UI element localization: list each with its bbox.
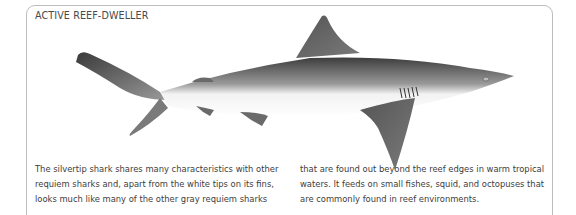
body-text-column-1: The silvertip shark shares many characte… [35, 162, 285, 207]
tail-lower-lobe [130, 98, 168, 136]
text-line: are commonly found in reef environments. [300, 192, 550, 207]
eye [483, 77, 489, 81]
dorsal-fin [296, 16, 360, 59]
shark-body [160, 57, 514, 116]
body-text-column-2: that are found out beyond the reef edges… [300, 162, 550, 207]
text-line: waters. It feeds on small fishes, squid,… [300, 177, 550, 192]
text-line: that are found out beyond the reef edges… [300, 162, 550, 177]
text-line: The silvertip shark shares many characte… [35, 162, 285, 177]
tail-upper-lobe [76, 52, 168, 100]
text-line: looks much like many of the other gray r… [35, 192, 285, 207]
text-line: requiem sharks and, apart from the white… [35, 177, 285, 192]
pectoral-fin [360, 98, 415, 170]
